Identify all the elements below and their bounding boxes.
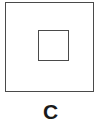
inner-square-shape (38, 30, 69, 61)
figure-caption-label: C (0, 101, 101, 123)
outer-square-shape (5, 2, 94, 92)
figure-container: C (0, 0, 101, 127)
